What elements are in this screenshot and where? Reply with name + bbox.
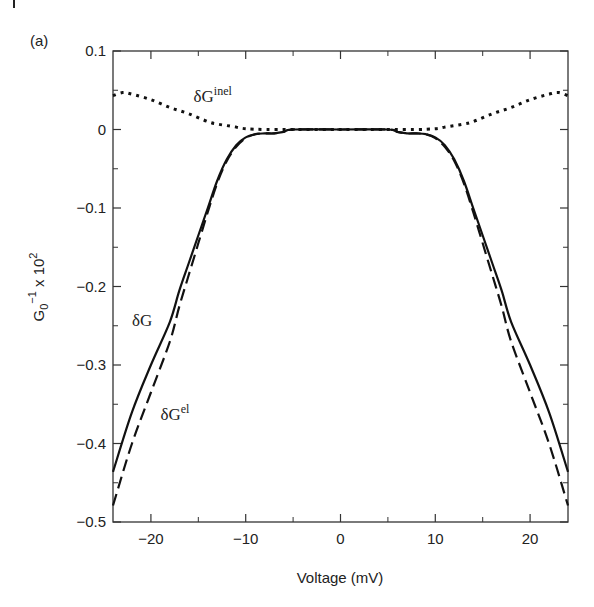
x-tick-label: −10 — [233, 530, 258, 547]
y-tick-label: −0.1 — [76, 199, 106, 216]
series-line-dotted — [113, 93, 568, 130]
series-annotation: δGel — [160, 402, 190, 424]
y-tick-label: −0.3 — [76, 356, 106, 373]
line-chart: 0.10−0.1−0.2−0.3−0.4−0.5 −20−1001020 δGi… — [0, 0, 594, 607]
y-axis: 0.10−0.1−0.2−0.3−0.4−0.5 — [76, 42, 568, 530]
y-axis-title: G0−1 x 102 — [26, 253, 50, 322]
x-tick-label: 10 — [427, 530, 444, 547]
y-tick-label: −0.5 — [76, 513, 106, 530]
y-tick-label: 0 — [98, 121, 106, 138]
series-line-dashed — [113, 129, 568, 505]
x-axis-title: Voltage (mV) — [297, 569, 384, 586]
y-title-g: G — [30, 310, 47, 322]
y-title-sup: −1 — [26, 291, 38, 304]
series-annotation: δG — [132, 311, 152, 330]
svg-text:G0−1 x 102: G0−1 x 102 — [26, 253, 50, 322]
y-tick-label: −0.4 — [76, 435, 106, 452]
series-group — [113, 93, 568, 506]
x-tick-label: 20 — [522, 530, 539, 547]
y-title-sub: 0 — [38, 304, 50, 310]
y-tick-label: −0.2 — [76, 278, 106, 295]
x-axis: −20−1001020 — [138, 51, 538, 547]
series-annotation: δGinel — [194, 84, 233, 106]
x-tick-label: 0 — [336, 530, 344, 547]
y-tick-label: 0.1 — [85, 42, 106, 59]
x-tick-label: −20 — [138, 530, 163, 547]
